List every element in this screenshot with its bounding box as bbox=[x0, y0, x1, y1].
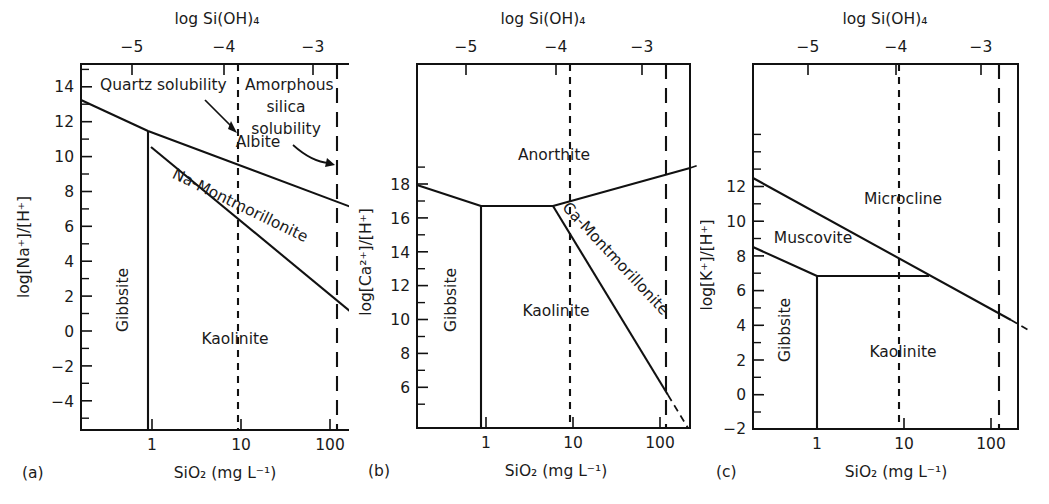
top-tick-label-b-1: −4 bbox=[545, 38, 568, 56]
bottom-tick-label-b-2: 100 bbox=[645, 434, 675, 452]
top-axis-title-a: log Si(OH)₄ bbox=[175, 10, 260, 28]
top-tick-label-a-2: −3 bbox=[302, 38, 325, 56]
y-tick-label-b-6: 6 bbox=[400, 379, 410, 397]
bottom-tick-label-a-1: 10 bbox=[231, 436, 251, 454]
y-tick-label-a-8: −2 bbox=[51, 358, 74, 376]
bottom-tick-label-a-0: 1 bbox=[147, 436, 157, 454]
y-tick-label-b-2: 14 bbox=[390, 244, 410, 262]
panel-b-svg: log Si(OH)₄ −5 −4 −3 1 10 100 bbox=[350, 0, 699, 504]
top-tick-label-b-0: −5 bbox=[455, 38, 478, 56]
bottom-tick-label-c-0: 1 bbox=[812, 435, 822, 453]
field-label-b-camontmorillonite: Ca-Montmorillonite bbox=[559, 198, 673, 318]
field-label-b-kaolinite: Kaolinite bbox=[522, 302, 589, 320]
bottom-axis-title-b: SiO₂ (mg L⁻¹) bbox=[505, 462, 607, 480]
annotation-amorphous-silica-a-line3: solubility bbox=[251, 120, 321, 138]
top-tick-label-c-1: −4 bbox=[885, 38, 908, 56]
field-label-b-gibbsite: Gibbsite bbox=[442, 268, 460, 332]
boundary-gibbsite-muscovite-c bbox=[753, 247, 817, 276]
bottom-ticks-b bbox=[486, 417, 660, 428]
panel-label-a: (a) bbox=[22, 464, 44, 482]
y-tick-label-a-3: 8 bbox=[64, 183, 74, 201]
y-tick-label-a-6: 2 bbox=[64, 288, 74, 306]
panel-label-c: (c) bbox=[716, 463, 737, 481]
annotation-amorphous-silica-a-line1: Amorphous bbox=[245, 76, 334, 94]
panel-c: log Si(OH)₄ −5 −4 −3 1 10 100 bbox=[700, 0, 1049, 504]
panel-b: log Si(OH)₄ −5 −4 −3 1 10 100 bbox=[350, 0, 699, 504]
quartz-solubility-arrow-a bbox=[205, 100, 233, 128]
amorphous-silica-arrow-a bbox=[293, 145, 329, 163]
panel-c-svg: log Si(OH)₄ −5 −4 −3 1 10 100 bbox=[700, 0, 1049, 504]
y-tick-label-b-3: 12 bbox=[390, 277, 410, 295]
y-tick-label-c-5: 2 bbox=[736, 352, 746, 370]
top-tick-label-a-1: −4 bbox=[213, 38, 236, 56]
bottom-ticks-a bbox=[152, 419, 330, 430]
annotation-quartz-solubility-a: Quartz solubility bbox=[100, 76, 227, 94]
y-tick-label-b-1: 16 bbox=[390, 210, 410, 228]
top-tick-label-c-2: −3 bbox=[970, 38, 993, 56]
field-label-c-kaolinite: Kaolinite bbox=[869, 343, 936, 361]
top-tick-label-c-0: −5 bbox=[797, 38, 820, 56]
bottom-tick-label-c-2: 100 bbox=[976, 435, 1006, 453]
bottom-tick-label-a-2: 100 bbox=[315, 436, 345, 454]
panel-a: log Si(OH)₄ −5 −4 −3 1 10 100 bbox=[0, 0, 349, 504]
y-tick-label-a-7: 0 bbox=[64, 323, 74, 341]
y-axis-title-b: log[Ca²⁺]/[H⁺] bbox=[357, 208, 375, 316]
y-tick-label-c-0: 12 bbox=[726, 178, 746, 196]
annotation-amorphous-silica-a-line2: silica bbox=[266, 98, 305, 116]
y-tick-label-a-9: −4 bbox=[51, 393, 74, 411]
y-tick-label-a-4: 6 bbox=[64, 218, 74, 236]
y-tick-label-c-1: 10 bbox=[726, 213, 746, 231]
field-label-a-gibbsite: Gibbsite bbox=[114, 268, 132, 332]
bottom-tick-label-b-0: 1 bbox=[481, 434, 491, 452]
top-tick-label-b-2: −3 bbox=[631, 38, 654, 56]
top-ticks-a bbox=[132, 64, 313, 75]
field-label-a-namontmorillonite: Na-Montmorillonite bbox=[169, 165, 310, 246]
field-label-c-microcline: Microcline bbox=[864, 190, 942, 208]
y-axis-title-a: log[Na⁺]/[H⁺] bbox=[15, 196, 33, 298]
boundary-kaolinite-camont-extension-b bbox=[668, 395, 688, 428]
boundary-muscovite-microcline-extension-c bbox=[1011, 320, 1030, 331]
y-tick-label-b-0: 18 bbox=[390, 176, 410, 194]
bottom-axis-title-a: SiO₂ (mg L⁻¹) bbox=[174, 464, 276, 482]
bottom-axis-title-c: SiO₂ (mg L⁻¹) bbox=[845, 463, 947, 481]
bottom-tick-label-c-1: 10 bbox=[894, 435, 914, 453]
y-tick-label-c-4: 4 bbox=[736, 317, 746, 335]
panel-a-svg: log Si(OH)₄ −5 −4 −3 1 10 100 bbox=[0, 0, 349, 504]
boundary-gibbsite-anorthite-b bbox=[417, 185, 481, 206]
y-tick-label-a-2: 10 bbox=[54, 148, 74, 166]
plot-frame-b bbox=[417, 64, 690, 428]
top-axis-title-c: log Si(OH)₄ bbox=[843, 10, 928, 28]
y-tick-label-b-4: 10 bbox=[390, 311, 410, 329]
bottom-tick-label-b-1: 10 bbox=[563, 434, 583, 452]
boundary-anorthite-camont-extension-b bbox=[690, 165, 699, 168]
bottom-ticks-c bbox=[817, 418, 991, 429]
field-label-b-anorthite: Anorthite bbox=[518, 146, 590, 164]
field-label-c-muscovite: Muscovite bbox=[774, 229, 852, 247]
boundary-gibbsite-albite-a bbox=[81, 100, 148, 131]
top-axis-title-b: log Si(OH)₄ bbox=[501, 10, 586, 28]
y-tick-label-c-6: 0 bbox=[736, 386, 746, 404]
y-minor-ticks-c bbox=[753, 134, 761, 412]
phase-diagram-figure: log Si(OH)₄ −5 −4 −3 1 10 100 bbox=[0, 0, 1049, 504]
y-tick-label-a-1: 12 bbox=[54, 113, 74, 131]
y-axis-title-c: log[K⁺]/[H⁺] bbox=[700, 219, 716, 310]
amorphous-silica-arrowhead-a bbox=[325, 158, 335, 167]
y-tick-label-c-3: 6 bbox=[736, 282, 746, 300]
y-tick-label-c-2: 8 bbox=[736, 248, 746, 266]
field-label-a-kaolinite: Kaolinite bbox=[201, 330, 268, 348]
top-ticks-b bbox=[466, 64, 642, 75]
y-tick-label-a-0: 14 bbox=[54, 78, 74, 96]
top-ticks-c bbox=[808, 64, 981, 75]
top-tick-label-a-0: −5 bbox=[121, 38, 144, 56]
y-tick-label-c-7: −2 bbox=[723, 420, 746, 438]
y-tick-label-b-5: 8 bbox=[400, 345, 410, 363]
panel-label-b: (b) bbox=[368, 462, 390, 480]
field-label-c-gibbsite: Gibbsite bbox=[776, 298, 794, 362]
y-tick-label-a-5: 4 bbox=[64, 253, 74, 271]
quartz-solubility-arrowhead-a bbox=[228, 121, 237, 133]
y-major-ticks-b bbox=[417, 184, 428, 387]
